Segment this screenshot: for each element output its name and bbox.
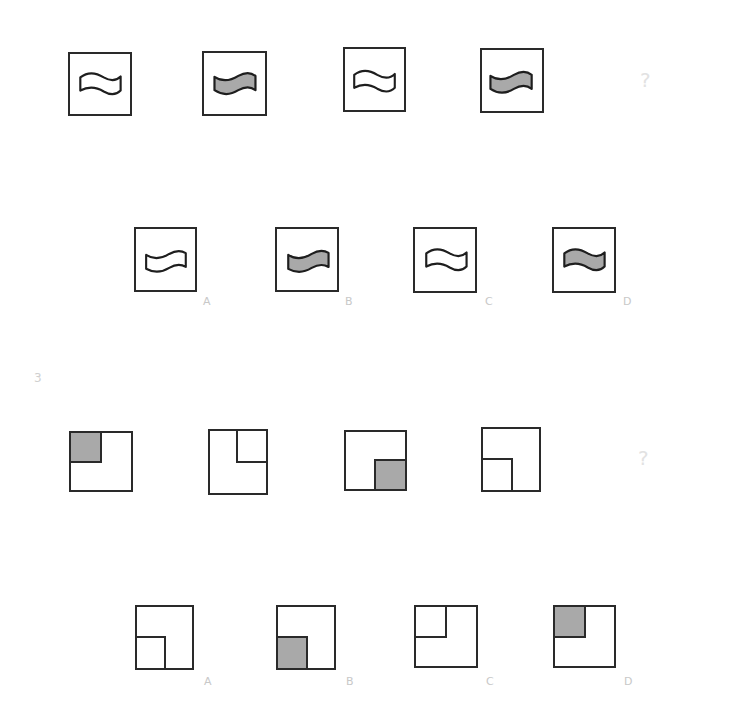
sequence-figure-4 xyxy=(480,48,544,113)
inner-square-top-left xyxy=(414,605,447,638)
sequence-figure-2 xyxy=(202,51,267,116)
sequence-figure-1 xyxy=(68,52,132,116)
inner-square-top-right xyxy=(236,429,268,463)
sequence-figure-2 xyxy=(208,429,268,495)
question-mark: ? xyxy=(640,68,651,92)
option-a-label: A xyxy=(204,675,212,688)
option-d-label: D xyxy=(624,675,632,688)
question-mark: ? xyxy=(638,446,649,470)
option-a-figure[interactable] xyxy=(135,605,194,670)
wave-flag-icon xyxy=(345,49,404,110)
inner-square-bottom-right xyxy=(374,459,407,491)
option-b-label: B xyxy=(346,675,354,688)
option-b-figure[interactable] xyxy=(276,605,336,670)
option-b-label: B xyxy=(345,295,353,308)
inner-square-bottom-left xyxy=(276,636,308,670)
wave-flag-icon xyxy=(554,229,614,291)
inner-square-top-left xyxy=(553,605,586,638)
option-a-figure[interactable] xyxy=(134,227,197,292)
wave-flag-icon xyxy=(277,229,337,290)
sequence-figure-1 xyxy=(69,431,133,492)
option-d-figure[interactable] xyxy=(553,605,616,668)
option-d-figure[interactable] xyxy=(552,227,616,293)
wave-flag-icon xyxy=(482,50,542,111)
wave-flag-icon xyxy=(70,54,130,114)
wave-flag-icon xyxy=(136,229,195,290)
sequence-figure-3 xyxy=(344,430,407,491)
option-c-figure[interactable] xyxy=(413,227,477,293)
sequence-figure-4 xyxy=(481,427,541,492)
option-a-label: A xyxy=(203,295,211,308)
option-c-label: C xyxy=(486,675,494,688)
wave-flag-icon xyxy=(204,53,265,114)
inner-square-top-left xyxy=(69,431,102,463)
puzzle-number: 3 xyxy=(34,371,42,385)
option-d-label: D xyxy=(623,295,631,308)
option-b-figure[interactable] xyxy=(275,227,339,292)
sequence-figure-3 xyxy=(343,47,406,112)
option-c-figure[interactable] xyxy=(414,605,478,668)
inner-square-bottom-left xyxy=(135,636,166,670)
inner-square-bottom-left xyxy=(481,458,513,492)
option-c-label: C xyxy=(485,295,493,308)
wave-flag-icon xyxy=(415,229,475,291)
